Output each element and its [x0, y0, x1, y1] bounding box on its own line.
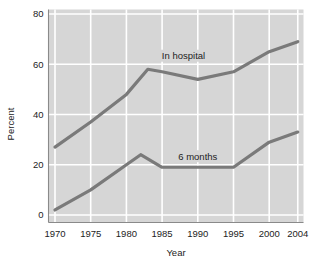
y-tick-label: 0 — [38, 209, 43, 220]
y-tick-label: 60 — [33, 59, 44, 70]
x-tick-label: 1985 — [152, 228, 173, 239]
x-tick-label: 1975 — [80, 228, 101, 239]
y-tick-label: 20 — [33, 159, 44, 170]
x-tick-label: 1970 — [44, 228, 65, 239]
x-axis-title: Year — [166, 247, 185, 258]
x-tick-label: 1990 — [187, 228, 208, 239]
chart-container: 020406080 197019751980198519901995200020… — [0, 0, 322, 269]
x-tick-label: 2004 — [287, 228, 308, 239]
x-tick-label: 2000 — [259, 228, 280, 239]
series-annotation-label: 6 months — [178, 151, 217, 162]
y-tick-label: 80 — [33, 8, 44, 19]
x-tick-label: 1980 — [116, 228, 137, 239]
y-tick-label: 40 — [33, 109, 44, 120]
series-annotation-label: In hospital — [162, 50, 205, 61]
x-tick-label: 1995 — [223, 228, 244, 239]
line-chart: 020406080 197019751980198519901995200020… — [0, 0, 322, 269]
y-axis-title: Percent — [5, 107, 16, 140]
